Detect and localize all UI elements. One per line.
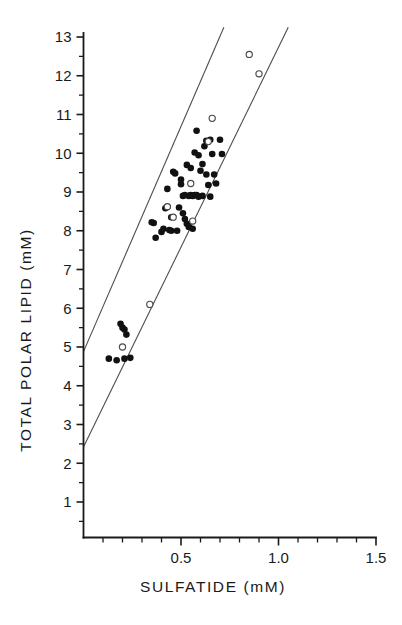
data-point-filled — [199, 193, 206, 200]
data-point-filled — [106, 355, 113, 362]
data-point-group — [106, 51, 263, 363]
data-point-open — [119, 344, 125, 350]
data-point-filled — [172, 170, 179, 177]
series-open-circles — [119, 51, 262, 350]
y-tick-label: 1 — [63, 493, 71, 510]
data-point-filled — [207, 193, 214, 200]
data-point-filled — [211, 171, 218, 178]
data-point-filled — [205, 182, 212, 189]
y-tick-label: 10 — [55, 145, 72, 162]
data-point-filled — [150, 220, 157, 227]
x-tick-label: 1.5 — [366, 549, 387, 566]
y-tick-label: 4 — [63, 377, 71, 394]
data-point-filled — [209, 151, 216, 158]
data-point-open — [190, 218, 196, 224]
data-point-open — [205, 139, 211, 145]
scatter-plot: 12345678910111213 0.51.01.5 TOTAL POLAR … — [0, 0, 402, 625]
data-point-filled — [195, 152, 202, 159]
y-tick-label: 7 — [63, 261, 71, 278]
y-tick-label: 5 — [63, 338, 71, 355]
data-point-filled — [127, 355, 134, 362]
data-point-filled — [187, 165, 194, 172]
data-point-filled — [217, 136, 224, 143]
data-point-filled — [189, 226, 196, 233]
x-axis-title: SULFATIDE (mM) — [140, 578, 286, 595]
data-point-filled — [213, 180, 220, 187]
data-point-filled — [164, 186, 171, 193]
y-tick-label: 8 — [63, 222, 71, 239]
y-tick-label: 3 — [63, 416, 71, 433]
y-tick-label: 6 — [63, 300, 71, 317]
y-tick-label: 9 — [63, 183, 71, 200]
data-point-filled — [180, 210, 187, 217]
data-point-filled — [174, 227, 181, 234]
data-point-open — [188, 180, 194, 186]
data-point-filled — [152, 234, 159, 241]
y-axis-ticks — [77, 37, 84, 521]
data-point-filled — [113, 357, 120, 364]
data-point-open — [209, 115, 215, 121]
x-axis-tick-labels: 0.51.01.5 — [171, 549, 387, 566]
data-point-filled — [178, 176, 185, 183]
data-point-filled — [176, 204, 183, 211]
x-tick-label: 0.5 — [171, 549, 192, 566]
data-point-filled — [203, 171, 210, 178]
data-point-filled — [123, 331, 130, 338]
x-tick-label: 1.0 — [268, 549, 289, 566]
y-axis-title-group: TOTAL POLAR LIPID (mM) — [17, 228, 34, 452]
data-point-filled — [197, 167, 204, 174]
figure-container: 12345678910111213 0.51.01.5 TOTAL POLAR … — [0, 0, 402, 625]
data-point-open — [246, 51, 252, 57]
data-point-filled — [219, 151, 226, 158]
y-tick-label: 13 — [55, 28, 72, 45]
data-point-filled — [168, 227, 175, 234]
y-axis-tick-labels: 12345678910111213 — [55, 28, 72, 510]
data-point-open — [170, 214, 176, 220]
y-axis-title: TOTAL POLAR LIPID (mM) — [17, 228, 34, 452]
lower-band-line — [84, 27, 289, 447]
plot-axes — [84, 33, 377, 538]
x-axis-ticks — [103, 538, 376, 546]
regression-band-lines — [84, 27, 289, 447]
data-point-open — [256, 71, 262, 77]
y-tick-label: 11 — [56, 106, 72, 123]
x-axis-title-group: SULFATIDE (mM) — [140, 578, 286, 595]
data-point-open — [164, 204, 170, 210]
data-point-filled — [199, 161, 206, 168]
data-point-open — [147, 301, 153, 307]
y-tick-label: 12 — [55, 67, 72, 84]
data-point-filled — [121, 355, 128, 362]
y-tick-label: 2 — [63, 455, 71, 472]
data-point-filled — [160, 226, 167, 233]
data-point-filled — [193, 127, 200, 134]
